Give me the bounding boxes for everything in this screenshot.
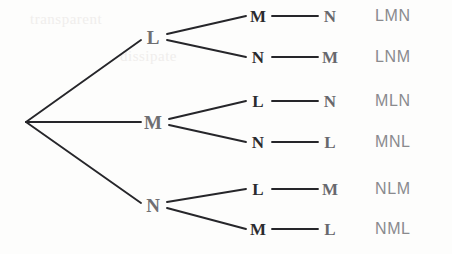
- outcome-label-lmn: LMN: [375, 8, 411, 24]
- branch-m-to-l: [169, 101, 246, 119]
- outcome-label-mnl: MNL: [375, 134, 411, 150]
- outcome-label-mln: MLN: [375, 93, 411, 109]
- branch-n-to-m: [167, 208, 246, 229]
- tree-node-level2-lm[interactable]: M: [250, 8, 266, 25]
- branch-l-to-n: [167, 40, 246, 57]
- tree-node-level2-ml[interactable]: L: [252, 93, 263, 110]
- tree-branch-lines: [0, 0, 452, 254]
- tree-node-level2-mn[interactable]: N: [252, 134, 264, 151]
- tree-node-level2-nm[interactable]: M: [250, 221, 266, 238]
- tree-node-level3-lmn[interactable]: N: [324, 8, 336, 25]
- outcome-label-lnm: LNM: [375, 49, 411, 65]
- tree-node-level2-ln[interactable]: N: [252, 49, 264, 66]
- tree-node-level3-nlm[interactable]: M: [322, 181, 338, 198]
- outcome-label-nlm: NLM: [375, 181, 411, 197]
- tree-node-level3-nml[interactable]: L: [324, 221, 335, 238]
- branch-m-to-n: [169, 125, 246, 142]
- branch-root-to-n: [26, 122, 141, 203]
- tree-node-level3-mnl[interactable]: L: [324, 134, 335, 151]
- tree-node-level1-n[interactable]: N: [146, 196, 160, 215]
- branch-root-to-l: [26, 40, 141, 122]
- tree-diagram-canvas: transparent dissipate L M: [0, 0, 452, 254]
- branch-n-to-l: [167, 189, 246, 202]
- tree-node-level3-lnm[interactable]: M: [322, 49, 338, 66]
- tree-node-level1-l[interactable]: L: [147, 28, 160, 47]
- outcome-label-nml: NML: [375, 221, 411, 237]
- tree-node-level3-mln[interactable]: N: [324, 93, 336, 110]
- tree-node-level2-nl[interactable]: L: [252, 181, 263, 198]
- tree-node-level1-m[interactable]: M: [144, 113, 162, 132]
- branch-l-to-m: [167, 16, 246, 34]
